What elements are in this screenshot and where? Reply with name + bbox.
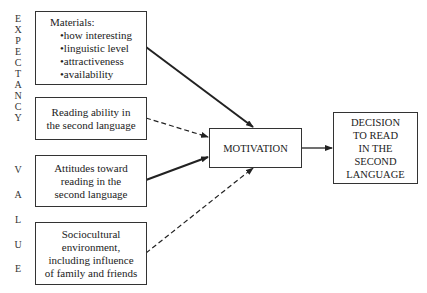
box-text-line: Reading ability in xyxy=(52,106,131,119)
box-text-line: including influence xyxy=(48,254,133,267)
box-text-line: DECISION xyxy=(351,116,400,129)
box-text-line: Attitudes toward xyxy=(54,162,128,175)
motivation-box: MOTIVATION xyxy=(209,128,302,168)
decision-box: DECISION TO READ IN THE SECOND LANGUAGE xyxy=(333,112,418,184)
box-text-line: LANGUAGE xyxy=(346,168,404,181)
materials-item: linguistic level xyxy=(50,42,146,55)
materials-box: Materials: how interesting linguistic le… xyxy=(35,11,147,85)
box-text-line: of family and friends xyxy=(45,267,138,280)
reading-ability-box: Reading ability in the second language xyxy=(35,97,147,140)
motivation-label: MOTIVATION xyxy=(223,142,288,155)
arrow-materials-to-motivation xyxy=(146,47,253,127)
box-text-line: second language xyxy=(55,188,128,201)
arrow-reading-ability-to-motivation xyxy=(146,118,208,137)
materials-item: attractiveness xyxy=(50,55,146,68)
box-text-line: Sociocultural xyxy=(62,228,121,241)
box-text-line: reading in the xyxy=(61,175,121,188)
box-text-line: IN THE xyxy=(359,142,393,155)
box-text-line: TO READ xyxy=(353,129,398,142)
box-text-line: SECOND xyxy=(354,155,396,168)
materials-item: how interesting xyxy=(50,29,146,42)
arrow-attitudes-to-motivation xyxy=(146,157,208,180)
attitudes-box: Attitudes toward reading in the second l… xyxy=(35,155,147,207)
materials-title: Materials: xyxy=(50,16,146,29)
arrow-sociocultural-to-motivation xyxy=(146,168,253,253)
box-text-line: environment, xyxy=(62,241,120,254)
materials-item: availability xyxy=(50,68,146,81)
sociocultural-box: Sociocultural environment, including inf… xyxy=(35,222,147,285)
box-text-line: the second language xyxy=(46,119,135,132)
materials-content: Materials: how interesting linguistic le… xyxy=(36,16,146,81)
